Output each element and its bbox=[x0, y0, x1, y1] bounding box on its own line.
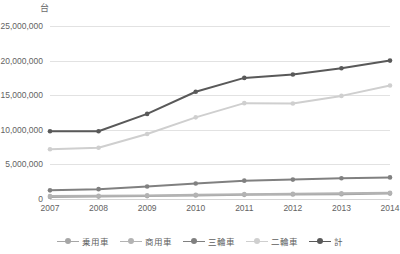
y-axis-tick-label: 5,000,000 bbox=[5, 159, 43, 169]
gridline bbox=[50, 164, 390, 165]
x-axis-tick-label: 2013 bbox=[332, 203, 351, 213]
gridline bbox=[50, 130, 390, 131]
legend-label: 二輪車 bbox=[271, 235, 298, 247]
plot-area bbox=[50, 26, 390, 199]
legend-item-二輪車[interactable]: 二輪車 bbox=[246, 235, 298, 247]
legend-key-icon bbox=[309, 237, 331, 246]
legend-key-icon bbox=[183, 237, 205, 246]
x-axis-tick-labels: 20072008200920102011201220132014 bbox=[50, 203, 390, 219]
legend-label: 計 bbox=[334, 235, 343, 247]
gridline bbox=[50, 61, 390, 62]
legend-label: 商用車 bbox=[145, 235, 172, 247]
legend-key-icon bbox=[57, 237, 79, 246]
legend-item-三輪車[interactable]: 三輪車 bbox=[183, 235, 235, 247]
legend-item-乗用車[interactable]: 乗用車 bbox=[57, 235, 109, 247]
legend-item-商用車[interactable]: 商用車 bbox=[120, 235, 172, 247]
legend-key-icon bbox=[246, 237, 268, 246]
gridline bbox=[50, 95, 390, 96]
legend-label: 三輪車 bbox=[208, 235, 235, 247]
x-axis-tick-label: 2009 bbox=[138, 203, 157, 213]
y-axis-tick-label: 10,000,000 bbox=[0, 125, 43, 135]
y-axis-tick-label: 25,000,000 bbox=[0, 21, 43, 31]
legend-key-icon bbox=[120, 237, 142, 246]
line-chart: 台 05,000,00010,000,00015,000,00020,000,0… bbox=[0, 0, 400, 254]
gridline bbox=[50, 199, 390, 200]
x-axis-tick-label: 2007 bbox=[41, 203, 60, 213]
y-axis-tick-label: 20,000,000 bbox=[0, 56, 43, 66]
x-axis-tick-label: 2008 bbox=[89, 203, 108, 213]
gridline bbox=[50, 26, 390, 27]
y-axis-tick-label: 15,000,000 bbox=[0, 90, 43, 100]
x-axis-tick-label: 2012 bbox=[283, 203, 302, 213]
x-axis-tick-label: 2014 bbox=[381, 203, 400, 213]
x-axis-tick-label: 2011 bbox=[235, 203, 253, 213]
legend-label: 乗用車 bbox=[82, 235, 109, 247]
x-axis-tick-label: 2010 bbox=[186, 203, 205, 213]
legend-item-計[interactable]: 計 bbox=[309, 235, 343, 247]
chart-legend: 乗用車商用車三輪車二輪車計 bbox=[0, 232, 400, 250]
y-axis-tick-labels: 05,000,00010,000,00015,000,00020,000,000… bbox=[0, 0, 46, 254]
